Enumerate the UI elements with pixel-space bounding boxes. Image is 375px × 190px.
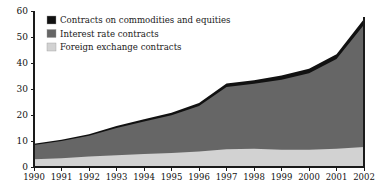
x-tick-label: 2001 — [326, 172, 348, 182]
y-tick-label: 0 — [22, 162, 28, 172]
legend-label: Contracts on commodities and equities — [60, 15, 230, 25]
x-tick-label: 1991 — [51, 172, 73, 182]
y-tick-label: 30 — [17, 84, 29, 94]
legend-label: Foreign exchange contracts — [60, 42, 182, 52]
x-tick-label: 1998 — [243, 172, 265, 182]
y-tick-label: 20 — [17, 110, 29, 120]
x-tick-label: 1999 — [271, 172, 293, 182]
y-tick-label: 50 — [17, 32, 29, 42]
legend-label: Interest rate contracts — [60, 29, 159, 39]
y-tick-label: 40 — [17, 58, 29, 68]
x-tick-label: 1995 — [161, 172, 183, 182]
chart-container: 0102030405060 19901991199219931994199519… — [0, 0, 375, 190]
x-tick-label: 2002 — [353, 172, 375, 182]
x-axis-ticks: 1990199119921993199419951996199719981999… — [23, 167, 375, 182]
stacked-area-chart: 0102030405060 19901991199219931994199519… — [0, 0, 375, 190]
legend-swatch — [47, 30, 56, 38]
x-tick-label: 1992 — [78, 172, 100, 182]
x-tick-label: 1993 — [106, 172, 128, 182]
x-tick-label: 1997 — [216, 172, 238, 182]
x-tick-label: 1994 — [133, 172, 155, 182]
x-tick-label: 1990 — [23, 172, 45, 182]
area-series-group — [34, 19, 364, 167]
chart-legend: Contracts on commodities and equitiesInt… — [47, 15, 230, 52]
legend-swatch — [47, 16, 56, 24]
legend-swatch — [47, 43, 56, 51]
y-axis-ticks: 0102030405060 — [17, 6, 34, 172]
x-tick-label: 1996 — [188, 172, 210, 182]
y-tick-label: 10 — [17, 136, 29, 146]
x-tick-label: 2000 — [298, 172, 320, 182]
y-tick-label: 60 — [17, 6, 29, 16]
